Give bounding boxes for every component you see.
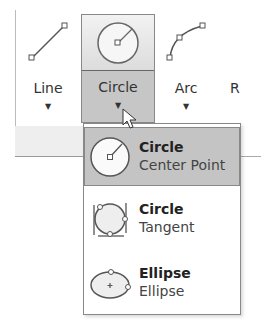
mouse-pointer-icon [122,108,138,134]
menu-item-title: Circle [139,139,225,156]
menu-item-title: Circle [139,201,195,218]
menu-item-subtitle: Ellipse [139,282,191,301]
line-label: Line [16,80,80,96]
rectangle-label[interactable]: R [230,80,240,96]
menu-item-subtitle: Tangent [139,218,195,237]
menu-item-subtitle: Center Point [139,156,225,175]
menu-item-circle-center-point[interactable]: Circle Center Point [84,127,240,186]
circle-center-point-icon [85,135,135,179]
arc-label: Arc [154,80,218,96]
menu-item-circle-tangent[interactable]: Circle Tangent [85,190,239,247]
circle-dropdown-menu: Circle Center Point Circle Tangent Ellip… [83,123,241,315]
ellipse-icon [85,261,135,305]
circle-dropdown-button[interactable]: Circle ▼ [82,71,154,122]
circle-icon [94,19,142,67]
line-button[interactable]: Line ▼ [16,14,80,112]
circle-tangent-icon [85,197,135,241]
circle-label: Circle [82,71,154,95]
arc-button[interactable]: Arc ▼ [154,14,218,112]
chevron-down-icon: ▼ [82,101,154,111]
chevron-down-icon[interactable]: ▼ [16,102,80,112]
menu-item-ellipse[interactable]: Ellipse Ellipse [85,254,239,311]
circle-icon-button[interactable] [82,15,154,71]
line-icon [16,14,80,70]
arc-icon [154,14,218,70]
menu-item-title: Ellipse [139,265,191,282]
circle-button[interactable]: Circle ▼ [81,14,155,123]
chevron-down-icon[interactable]: ▼ [154,102,218,112]
